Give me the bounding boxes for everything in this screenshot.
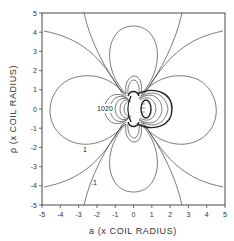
x-tick-label: 2 [168, 211, 172, 218]
x-tick-labels: -5 -4 -3 -2 -1 0 1 2 3 4 5 [39, 211, 227, 218]
y-tick-label: 1 [33, 86, 37, 93]
y-tick-labels: 5 4 3 2 1 0 -1 -2 -3 -4 -5 [31, 10, 37, 209]
contour-lines [44, 13, 223, 205]
y-tick-label: -4 [31, 182, 37, 189]
y-tick-label: -3 [31, 163, 37, 170]
y-tick-label: -5 [31, 202, 37, 209]
y-tick-label: 3 [33, 48, 37, 55]
y-tick-label: 4 [33, 29, 37, 36]
plot-frame [42, 13, 225, 205]
x-tick-label: 3 [186, 211, 190, 218]
contour-plot: 5 4 3 2 1 0 -1 -2 -3 -4 -5 -5 -4 -3 -2 -… [0, 0, 234, 241]
contour-label: 10 [97, 105, 105, 112]
x-tick-label: 1 [150, 211, 154, 218]
y-tick-label: -1 [31, 125, 37, 132]
x-tick-label: -2 [94, 211, 100, 218]
contour-label: .1 [91, 179, 97, 186]
x-tick-label: -3 [75, 211, 81, 218]
y-axis-title: ρ (x COIL RADIUS) [8, 65, 18, 153]
x-tick-label: -5 [39, 211, 45, 218]
y-tick-label: -2 [31, 144, 37, 151]
y-tick-label: 2 [33, 67, 37, 74]
contour-label: 1 [83, 146, 87, 153]
x-tick-label: 0 [132, 211, 136, 218]
y-tick-label: 0 [33, 106, 37, 113]
x-tick-label: 5 [223, 211, 227, 218]
x-axis-title: a (x COIL RADIUS) [89, 226, 177, 236]
contour-label: 20 [105, 105, 113, 112]
x-tick-label: 4 [205, 211, 209, 218]
contour-labels: 10 20 1 .1 [83, 104, 113, 186]
y-tick-label: 5 [33, 10, 37, 17]
x-tick-label: -4 [57, 211, 63, 218]
x-tick-label: -1 [112, 211, 118, 218]
